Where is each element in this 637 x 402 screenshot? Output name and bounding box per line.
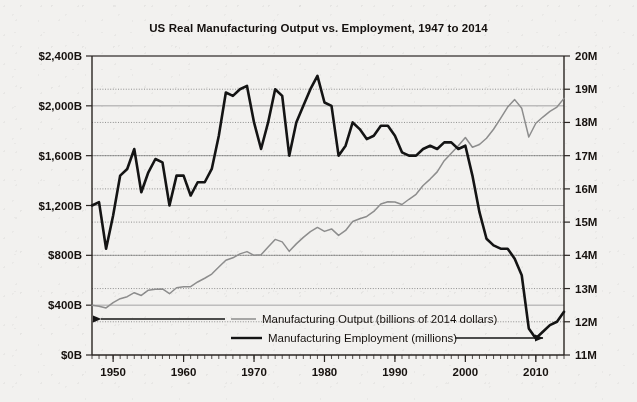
left-axis-tick-label: $0B	[61, 349, 82, 361]
left-axis-tick-label: $400B	[48, 299, 82, 311]
right-axis-tick-label: 18M	[575, 116, 597, 128]
legend-label-output: Manufacturing Output (billions of 2014 d…	[262, 313, 497, 325]
x-axis-tick-label: 1970	[241, 366, 267, 378]
x-axis-tick-labels: 1950196019701980199020002010	[100, 355, 548, 378]
x-axis-tick-label: 2010	[523, 366, 549, 378]
right-axis-tick-label: 11M	[575, 349, 597, 361]
chart-page: US Real Manufacturing Output vs. Employm…	[0, 0, 637, 402]
x-axis-tick-label: 1980	[312, 366, 338, 378]
left-axis-gridlines	[92, 56, 564, 305]
right-axis-tick-label: 15M	[575, 216, 597, 228]
right-axis-tick-label: 19M	[575, 83, 597, 95]
right-axis-tick-labels: 11M12M13M14M15M16M17M18M19M20M	[575, 50, 597, 361]
right-axis-ticks	[564, 56, 570, 355]
left-axis-tick-label: $1,600B	[39, 150, 82, 162]
left-axis-tick-label: $2,000B	[39, 100, 82, 112]
right-axis-tick-label: 14M	[575, 249, 597, 261]
left-axis-tick-label: $1,200B	[39, 200, 82, 212]
x-axis-tick-label: 1950	[100, 366, 126, 378]
right-axis-tick-label: 12M	[575, 316, 597, 328]
right-axis-tick-label: 13M	[575, 283, 597, 295]
left-axis-tick-label: $2,400B	[39, 50, 82, 62]
series-line-manufacturing-employment	[92, 76, 564, 338]
left-axis-tick-labels: $0B$400B$800B$1,200B$1,600B$2,000B$2,400…	[39, 50, 82, 361]
series-line-manufacturing-output	[92, 98, 564, 308]
legend-label-employment: Manufacturing Employment (millions)	[268, 332, 457, 344]
x-axis-tick-label: 2000	[453, 366, 479, 378]
right-axis-tick-label: 20M	[575, 50, 597, 62]
right-axis-tick-label: 16M	[575, 183, 597, 195]
left-axis-tick-label: $800B	[48, 249, 82, 261]
x-axis-tick-label: 1990	[382, 366, 408, 378]
chart-canvas: $0B$400B$800B$1,200B$1,600B$2,000B$2,400…	[0, 0, 637, 402]
right-axis-tick-label: 17M	[575, 150, 597, 162]
chart-legend: Manufacturing Output (billions of 2014 d…	[101, 313, 543, 344]
x-axis-tick-label: 1960	[171, 366, 197, 378]
